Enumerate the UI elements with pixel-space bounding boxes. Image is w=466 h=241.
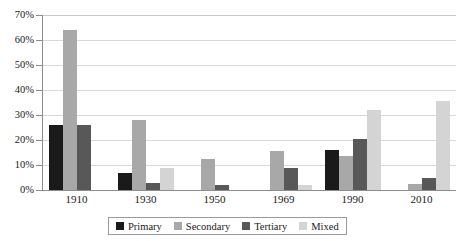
y-tick-label: 10% bbox=[0, 160, 34, 170]
y-tick-mark bbox=[36, 115, 42, 116]
legend-swatch-secondary-icon bbox=[174, 222, 182, 230]
bar-group-1950 bbox=[187, 15, 243, 190]
y-tick-mark bbox=[36, 65, 42, 66]
bar-secondary-1990 bbox=[339, 156, 353, 190]
legend-label: Tertiary bbox=[254, 221, 287, 232]
y-tick-mark bbox=[36, 165, 42, 166]
x-tick-label-1910: 1910 bbox=[37, 193, 117, 206]
x-tick-label-1990: 1990 bbox=[313, 193, 393, 206]
bar-tertiary-2010 bbox=[422, 178, 436, 191]
legend-entry-secondary[interactable]: Secondary bbox=[174, 221, 230, 232]
y-tick-label: 30% bbox=[0, 110, 34, 120]
legend-entry-mixed[interactable]: Mixed bbox=[299, 221, 338, 232]
legend-label: Primary bbox=[128, 221, 162, 232]
y-tick-label: 20% bbox=[0, 135, 34, 145]
bar-chart: 0%10%20%30%40%50%60%70% 1910193019501969… bbox=[0, 0, 466, 241]
bar-tertiary-1930 bbox=[146, 183, 160, 191]
y-tick-label: 0% bbox=[0, 185, 34, 195]
bar-primary-1990 bbox=[325, 150, 339, 190]
bar-tertiary-1990 bbox=[353, 139, 367, 190]
y-tick-mark bbox=[36, 15, 42, 16]
bar-mixed-2010 bbox=[436, 101, 450, 190]
y-tick-label: 60% bbox=[0, 35, 34, 45]
y-tick-mark bbox=[36, 190, 42, 191]
y-axis-line bbox=[42, 15, 43, 190]
bar-primary-1930 bbox=[118, 173, 132, 191]
bar-primary-1910 bbox=[49, 125, 63, 190]
bar-secondary-1969 bbox=[270, 151, 284, 190]
legend-entry-tertiary[interactable]: Tertiary bbox=[242, 221, 287, 232]
x-tick-label-1930: 1930 bbox=[106, 193, 186, 206]
legend-label: Secondary bbox=[186, 221, 230, 232]
x-axis-line bbox=[42, 190, 456, 191]
bar-tertiary-1969 bbox=[284, 168, 298, 191]
y-tick-mark bbox=[36, 40, 42, 41]
chart-legend: PrimarySecondaryTertiaryMixed bbox=[108, 217, 347, 235]
legend-swatch-tertiary-icon bbox=[242, 222, 250, 230]
y-tick-mark bbox=[36, 90, 42, 91]
bar-secondary-1950 bbox=[201, 159, 215, 190]
legend-label: Mixed bbox=[311, 221, 338, 232]
y-tick-label: 40% bbox=[0, 85, 34, 95]
bar-secondary-1930 bbox=[132, 120, 146, 190]
legend-swatch-primary-icon bbox=[116, 222, 124, 230]
bar-group-1910 bbox=[49, 15, 105, 190]
x-tick-label-1969: 1969 bbox=[244, 193, 324, 206]
legend-swatch-mixed-icon bbox=[299, 222, 307, 230]
y-tick-label: 70% bbox=[0, 10, 34, 20]
y-tick-label: 50% bbox=[0, 60, 34, 70]
bar-tertiary-1910 bbox=[77, 125, 91, 190]
bar-group-1969 bbox=[256, 15, 312, 190]
bar-secondary-1910 bbox=[63, 30, 77, 190]
bar-mixed-1930 bbox=[160, 168, 174, 191]
bar-group-1990 bbox=[325, 15, 381, 190]
bar-group-1930 bbox=[118, 15, 174, 190]
x-tick-label-2010: 2010 bbox=[382, 193, 462, 206]
bar-group-2010 bbox=[394, 15, 450, 190]
legend-entry-primary[interactable]: Primary bbox=[116, 221, 162, 232]
y-tick-mark bbox=[36, 140, 42, 141]
x-tick-label-1950: 1950 bbox=[175, 193, 255, 206]
plot-area bbox=[42, 15, 456, 190]
bar-mixed-1990 bbox=[367, 110, 381, 190]
